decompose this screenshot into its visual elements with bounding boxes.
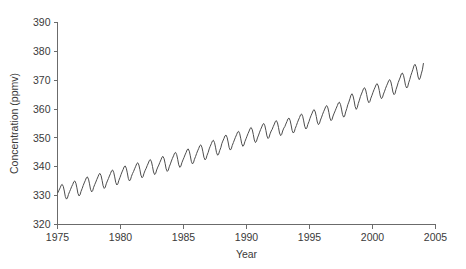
y-tick-label: 320: [33, 218, 51, 230]
x-axis-title: Year: [236, 248, 258, 260]
y-tick-label: 350: [33, 132, 51, 144]
y-tick-label: 340: [33, 160, 51, 172]
y-tick-label: 330: [33, 189, 51, 201]
y-axis-title: Concentration (ppmv): [8, 73, 20, 174]
x-tick-label: 2005: [424, 231, 448, 243]
y-tick-label: 390: [33, 16, 51, 28]
x-tick-label: 1975: [46, 231, 70, 243]
y-tick-label: 370: [33, 74, 51, 86]
y-tick-label: 360: [33, 103, 51, 115]
x-tick-label: 1985: [172, 231, 196, 243]
y-tick-label: 380: [33, 45, 51, 57]
co2-concentration-chart: 320330340350360370380390 197519801985199…: [0, 0, 466, 269]
x-tick-label: 1995: [298, 231, 322, 243]
chart-background: [0, 0, 466, 269]
chart-svg: 320330340350360370380390 197519801985199…: [0, 0, 466, 269]
x-tick-label: 2000: [361, 231, 385, 243]
x-tick-label: 1990: [235, 231, 259, 243]
x-tick-label: 1980: [109, 231, 133, 243]
